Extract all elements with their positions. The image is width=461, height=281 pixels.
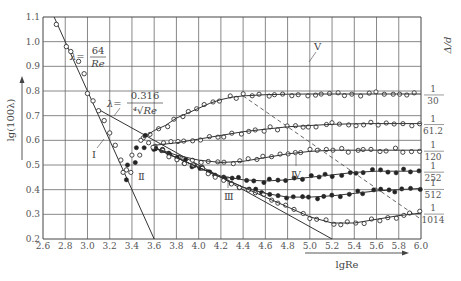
x-tick-label: 4.0 xyxy=(191,241,206,251)
roughness-label-numerator: 1 xyxy=(430,203,436,213)
svg-text:0.316: 0.316 xyxy=(131,90,160,101)
x-tick-label: 5.2 xyxy=(325,241,339,251)
data-point xyxy=(393,190,397,194)
laminar-data-point xyxy=(91,99,95,103)
x-tick-label: 3.0 xyxy=(80,241,95,251)
laminar-data-point xyxy=(85,91,89,95)
x-tick-label: 5.6 xyxy=(369,241,384,251)
svg-text:λ=: λ= xyxy=(69,51,85,62)
x-tick-label: 5.0 xyxy=(303,241,318,251)
y-axis-arrowhead-icon xyxy=(20,76,25,83)
data-point xyxy=(257,92,261,96)
transition-data-point xyxy=(147,141,151,145)
data-point xyxy=(293,124,297,128)
y-tick-label: 0.5 xyxy=(26,160,41,170)
roughness-label-numerator: 1 xyxy=(430,140,436,150)
x-axis-label: lgRe xyxy=(335,259,358,270)
transition-data-point xyxy=(138,153,142,157)
roughness-labels: 130161.211201252151211014 xyxy=(422,84,445,225)
region-label-4: Ⅳ xyxy=(291,169,302,180)
x-tick-label: 6.0 xyxy=(414,241,429,251)
data-point xyxy=(361,147,365,151)
data-point xyxy=(401,167,405,171)
x-tick-labels: 2.62.83.03.23.43.63.84.04.24.44.64.85.05… xyxy=(36,241,429,251)
y-tick-label: 0.6 xyxy=(26,135,41,145)
transition-data-point xyxy=(130,153,134,157)
data-point xyxy=(374,90,378,94)
data-point xyxy=(384,149,388,153)
data-point xyxy=(317,175,321,179)
laminar-data-point xyxy=(82,72,86,76)
x-tick-label: 3.6 xyxy=(147,241,162,251)
transition-data-point xyxy=(134,146,138,150)
data-point xyxy=(308,147,312,151)
x-tick-label: 4.2 xyxy=(214,241,228,251)
roughness-label-numerator: 1 xyxy=(430,161,436,171)
y-tick-label: 0.8 xyxy=(26,86,41,96)
x-tick-label: 3.2 xyxy=(103,241,117,251)
region-label-1: Ⅰ xyxy=(92,149,96,160)
roughness-label-numerator: 1 xyxy=(430,84,436,94)
transition-data-point xyxy=(139,138,143,142)
roughness-label-denominator: 61.2 xyxy=(423,126,443,136)
roughness-label-denominator: 1014 xyxy=(422,215,445,225)
y-tick-label: 0.9 xyxy=(26,61,41,71)
data-point xyxy=(252,179,256,183)
x-tick-label: 5.4 xyxy=(347,241,362,251)
data-point xyxy=(386,170,390,174)
data-point xyxy=(408,186,412,190)
y-tick-label: 1.1 xyxy=(26,12,40,22)
data-point xyxy=(315,197,319,201)
data-point xyxy=(384,121,388,125)
x-tick-label: 3.4 xyxy=(125,241,140,251)
y-tick-label: 0.3 xyxy=(26,209,41,219)
roughness-label-numerator: 1 xyxy=(430,114,436,124)
laminar-data-point xyxy=(54,22,58,26)
data-point xyxy=(393,146,397,150)
transition-data-point xyxy=(125,163,129,167)
transition-data-point xyxy=(133,160,137,164)
svg-text:64: 64 xyxy=(92,45,105,56)
data-point xyxy=(315,148,319,152)
nikuradse-chart: 2.62.83.03.23.43.63.84.04.24.44.64.85.05… xyxy=(0,0,461,281)
data-point xyxy=(400,187,404,191)
data-point xyxy=(238,159,242,163)
transition-data-point xyxy=(142,146,146,150)
data-point xyxy=(296,93,300,97)
transition-data-point xyxy=(129,170,133,174)
transition-data-point xyxy=(121,170,125,174)
x-tick-label: 4.8 xyxy=(280,241,295,251)
transition-data-point xyxy=(124,178,128,182)
reference-lines xyxy=(54,17,421,239)
x-tick-label: 4.4 xyxy=(236,241,251,251)
region-label-3: Ⅲ xyxy=(224,191,234,202)
x-axis-arrowhead-icon xyxy=(402,251,409,256)
laminar-data-point xyxy=(113,143,117,147)
data-point xyxy=(369,147,373,151)
y-axis-label: lg(100λ) xyxy=(5,98,16,141)
data-point xyxy=(410,124,414,128)
blasius-formula: λ= 0.316 ⁴√Re xyxy=(106,90,163,116)
roughness-label-denominator: 512 xyxy=(424,190,441,200)
x-tick-label: 2.8 xyxy=(58,241,73,251)
laminar-data-point xyxy=(64,44,68,48)
svg-text:λ=: λ= xyxy=(106,98,122,109)
region-label-2: Ⅱ xyxy=(138,171,145,182)
data-point xyxy=(367,91,371,95)
y-tick-label: 0.2 xyxy=(26,234,40,244)
x-tick-label: 4.6 xyxy=(258,241,273,251)
x-tick-label: 3.8 xyxy=(169,241,184,251)
data-point xyxy=(283,178,287,182)
data-point xyxy=(346,150,350,154)
svg-text:Re: Re xyxy=(90,58,105,69)
data-point xyxy=(394,216,398,220)
y-tick-label: 1.0 xyxy=(26,37,41,47)
y-tick-label: 0.7 xyxy=(26,111,41,121)
roughness-label-numerator: 1 xyxy=(430,178,436,188)
y-tick-labels: 0.20.30.40.50.60.70.80.91.01.1 xyxy=(26,12,41,244)
x-tick-label: 5.8 xyxy=(392,241,407,251)
data-point xyxy=(408,170,412,174)
laminar-data-point xyxy=(119,158,123,162)
data-point xyxy=(361,171,365,175)
y-tick-label: 0.4 xyxy=(26,185,41,195)
